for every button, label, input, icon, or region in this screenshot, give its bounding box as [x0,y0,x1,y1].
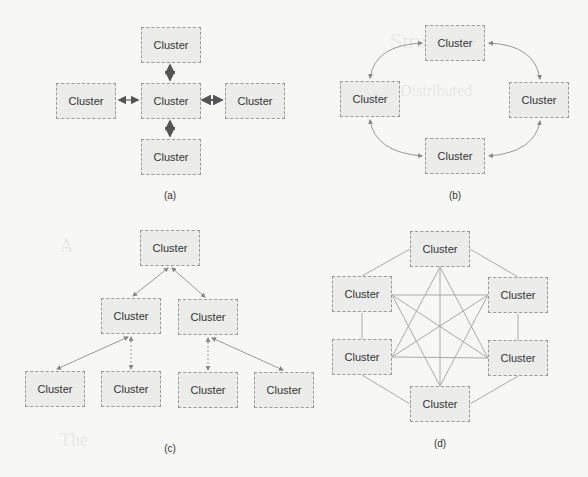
diagram-a-node-right: Cluster [225,83,285,119]
diagram-a-caption: (a) [164,190,176,201]
diagram-c-node-root: Cluster [140,230,200,266]
diagram-d-node-lower-left: Cluster [332,339,392,375]
diagram-b-node-left: Cluster [340,81,400,117]
diagram-d-node-bottom: Cluster [410,386,470,422]
diagram-b-node-right: Cluster [509,82,569,118]
diagram-c-node-mid-right: Cluster [178,299,238,335]
diagram-d-edges [362,249,518,404]
diagram-d-caption: (d) [434,438,446,449]
diagram-c-node-leaf-3: Cluster [178,372,238,408]
diagram-b-node-bottom: Cluster [425,138,485,174]
diagram-a-node-top: Cluster [141,27,201,63]
diagram-c-node-leaf-1: Cluster [25,371,85,407]
diagram-d-node-upper-left: Cluster [332,276,392,312]
diagram-b-node-top: Cluster [425,25,485,61]
diagram-d-node-top: Cluster [410,231,470,267]
diagram-c-node-leaf-4: Cluster [254,372,314,408]
diagram-c-caption: (c) [164,443,176,454]
diagram-a-node-center: Cluster [141,83,201,119]
diagram-d-node-lower-right: Cluster [488,340,548,376]
diagram-d-node-upper-right: Cluster [488,277,548,313]
diagram-c-node-leaf-2: Cluster [101,371,161,407]
diagram-a-node-left: Cluster [56,83,116,119]
diagram-c-node-mid-left: Cluster [101,298,161,334]
diagram-a-node-bottom: Cluster [141,139,201,175]
diagram-b-caption: (b) [449,190,461,201]
diagram-c-edges [57,268,283,370]
